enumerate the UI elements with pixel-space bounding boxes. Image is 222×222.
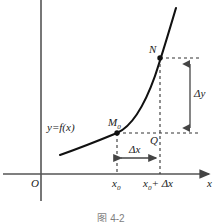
tick-label-x0dx-tail: + Δx [151,177,173,189]
point-n [157,55,162,60]
figure-caption: 图 4-2 [0,210,222,222]
curve-equation-label: y=f(x) [47,122,75,133]
tick-label-x0-plus-dx: x0+ Δx [143,178,173,192]
x-axis-label: x [207,178,212,189]
figure-container: O x x0 x0+ Δx y=f(x) M0 N Q Δy Δx 图 4-2 [0,0,222,222]
origin-label: O [31,178,39,189]
point-n-label: N [149,44,156,55]
point-q-label: Q [150,135,158,146]
point-m0-label-subscript: 0 [117,123,121,131]
point-m0-label-base: M [108,116,117,128]
delta-x-label: Δx [129,144,140,155]
tick-label-x0: x0 [112,178,120,192]
tick-label-x0-subscript: 0 [117,184,121,192]
delta-y-label: Δy [194,88,205,99]
point-m0-label: M0 [108,117,121,131]
